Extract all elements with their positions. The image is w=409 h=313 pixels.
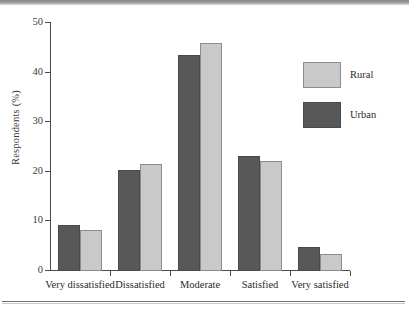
bar-chart-figure: 01020304050 Very dissatisfiedDissatisfie… (0, 0, 409, 313)
y-tick-mark (45, 270, 51, 271)
y-axis-line (50, 22, 51, 271)
bar-urban-1 (118, 170, 140, 271)
x-axis-label-2: Moderate (180, 279, 220, 291)
legend-label-rural: Rural (350, 69, 373, 80)
bar-rural-0 (80, 230, 102, 271)
x-tick-mark (230, 271, 231, 276)
y-tick-mark (45, 171, 51, 172)
legend-item-urban: Urban (303, 102, 403, 128)
bar-urban-4 (298, 247, 320, 271)
page-bottom-rule-shadow (2, 303, 405, 304)
y-tick-label: 20 (3, 166, 43, 176)
y-tick-label: 0 (3, 265, 43, 275)
legend-item-rural: Rural (303, 62, 403, 88)
bar-urban-0 (58, 225, 80, 271)
bar-rural-1 (140, 164, 162, 271)
legend-swatch-rural-icon (303, 62, 341, 88)
plot-area: 01020304050 Very dissatisfiedDissatisfie… (50, 22, 350, 271)
x-axis-label-3: Satisfied (242, 279, 279, 291)
page-scan-band (0, 0, 409, 5)
bar-rural-3 (260, 161, 282, 271)
legend-label-urban: Urban (350, 109, 376, 120)
y-tick-mark (45, 220, 51, 221)
y-tick-label: 40 (3, 67, 43, 77)
x-tick-mark (170, 271, 171, 276)
y-axis-title-text: Respondents (%) (10, 90, 21, 165)
y-tick-label: 10 (3, 215, 43, 225)
y-tick-label: 30 (3, 116, 43, 126)
y-tick-label: 50 (3, 17, 43, 27)
x-axis-label-0: Very dissatisfied (45, 279, 115, 291)
page-bottom-rule (2, 301, 405, 302)
y-tick-mark (45, 72, 51, 73)
x-tick-mark (290, 271, 291, 276)
bar-rural-2 (200, 43, 222, 271)
legend-swatch-urban-icon (303, 102, 341, 128)
y-tick-mark (45, 121, 51, 122)
bar-rural-4 (320, 254, 342, 271)
chart-legend: Rural Urban (303, 62, 403, 142)
x-tick-mark (350, 271, 351, 276)
x-axis-label-4: Very satisfied (291, 279, 348, 291)
x-tick-mark (110, 271, 111, 276)
y-axis-title: Respondents (%) (10, 15, 21, 90)
bar-urban-3 (238, 156, 260, 271)
y-tick-mark (45, 22, 51, 23)
x-axis-label-1: Dissatisfied (115, 279, 165, 291)
bar-urban-2 (178, 55, 200, 271)
